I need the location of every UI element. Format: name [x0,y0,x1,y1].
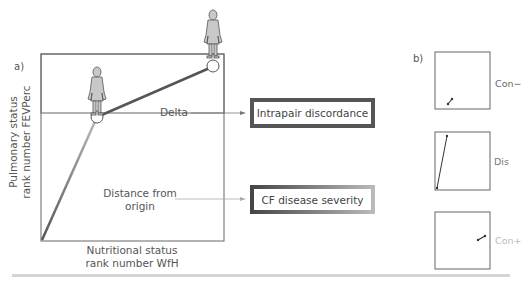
distance-label-line2: origin [100,200,180,213]
distance-label: Distance from origin [100,187,180,213]
plot-frame-top [41,54,224,113]
panel-b-box-con-minus [435,52,490,109]
diagram-canvas [0,0,529,283]
distance-arrowhead [240,197,246,201]
person-silhouette-icon [204,10,222,58]
intrapair-discordance-text: Intrapair discordance [257,107,369,119]
label-con-minus: Con− [495,78,521,89]
distance-label-line1: Distance from [100,187,180,200]
y-axis-label-line1: Pulmonary status [7,82,20,202]
label-dis: Dis [494,156,509,167]
x-axis-label: Nutritional status rank number WfH [72,244,192,270]
bottom-separator [12,274,510,277]
delta-label: Delta [160,106,188,119]
panel-b-box-dis [435,132,490,190]
delta-arrowhead [240,111,246,115]
sibling-b-point [207,60,219,72]
y-axis-label: Pulmonary status rank number FEVPerc [7,82,33,202]
dis-vector [437,136,447,188]
x-axis-label-line2: rank number WfH [72,257,192,270]
y-axis-label-line2: rank number FEVPerc [20,82,33,202]
label-con-plus: Con+ [495,235,521,246]
cf-disease-severity-text: CF disease severity [261,194,363,206]
x-axis-label-line1: Nutritional status [72,244,192,257]
delta-line [97,67,212,117]
intrapair-discordance-box: Intrapair discordance [250,98,375,128]
panel-b-label: b) [413,53,423,64]
person-silhouette-icon [88,67,106,115]
panel-b-box-con-plus [435,212,490,269]
con-plus-vector [478,236,485,240]
origin-distance-line [42,117,97,240]
cf-disease-severity-box: CF disease severity [250,185,375,214]
